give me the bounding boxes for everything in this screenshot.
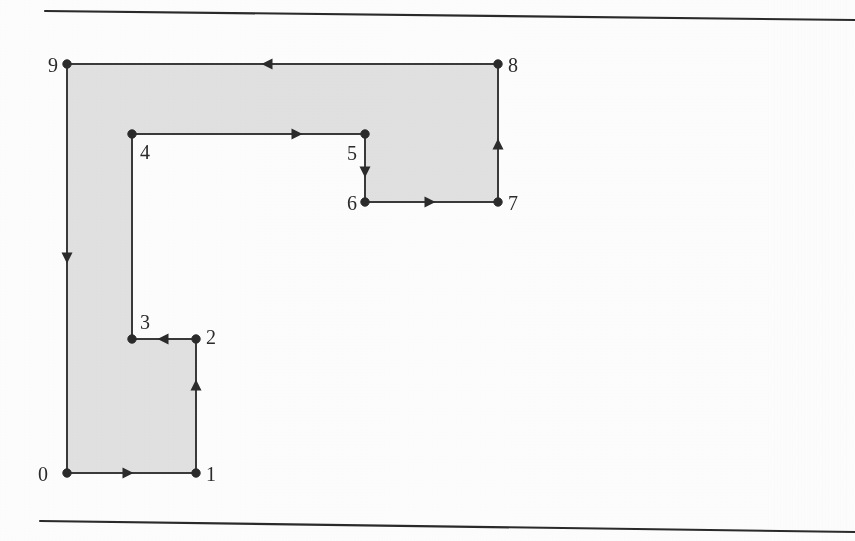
vertex-dot-5 (361, 130, 369, 138)
vertex-label-5: 5 (347, 142, 357, 164)
polygon-group (67, 64, 498, 473)
vertex-label-9: 9 (48, 54, 58, 76)
vertex-dot-9 (63, 60, 71, 68)
vertex-label-1: 1 (206, 463, 216, 485)
vertex-label-0: 0 (38, 463, 48, 485)
vertex-dot-4 (128, 130, 136, 138)
vertex-dot-2 (192, 335, 200, 343)
top-rule (45, 11, 855, 20)
figure-page: { "figure": { "title": "", "description"… (0, 0, 855, 541)
vertex-label-2: 2 (206, 326, 216, 348)
vertex-dot-7 (494, 198, 502, 206)
vertex-dot-1 (192, 469, 200, 477)
vertex-dot-0 (63, 469, 71, 477)
vertex-label-8: 8 (508, 54, 518, 76)
vertex-label-7: 7 (508, 192, 518, 214)
bottom-rule (40, 521, 855, 532)
vertex-label-3: 3 (140, 311, 150, 333)
vertex-dot-6 (361, 198, 369, 206)
vertex-dot-3 (128, 335, 136, 343)
vertex-label-6: 6 (347, 192, 357, 214)
polygon-figure: 0123456789 (0, 0, 855, 541)
vertex-label-4: 4 (140, 141, 150, 163)
vertex-dot-8 (494, 60, 502, 68)
